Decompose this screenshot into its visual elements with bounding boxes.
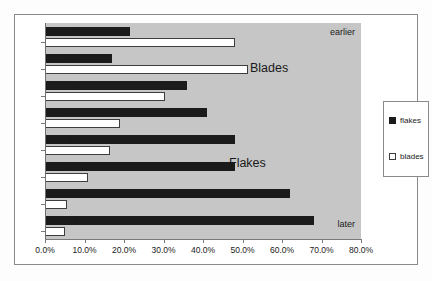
bar-group	[45, 50, 361, 77]
x-axis-label: 0.0%	[35, 245, 54, 255]
y-axis-label: IIIa	[47, 161, 77, 171]
x-axis-label: 20.0%	[112, 245, 136, 255]
y-axis-label: IV	[47, 107, 77, 117]
x-axis-label: 40.0%	[191, 245, 215, 255]
x-axis-label: 10.0%	[72, 245, 96, 255]
x-tick-mark	[45, 239, 46, 243]
legend-label-blades: blades	[400, 152, 424, 161]
x-tick-mark	[361, 239, 362, 243]
bar-group	[45, 158, 361, 185]
plot-area: earlier later Blades Flakes	[45, 23, 361, 239]
x-tick-mark	[85, 239, 86, 243]
bar-blades	[45, 200, 67, 209]
bar-blades	[45, 173, 88, 182]
legend-swatch-flakes-icon	[389, 117, 396, 124]
bar-group	[45, 23, 361, 50]
x-axis-label: 50.0%	[230, 245, 254, 255]
bar-group	[45, 185, 361, 212]
annotation-earlier: earlier	[330, 27, 355, 37]
x-tick-mark	[164, 239, 165, 243]
bar-group	[45, 131, 361, 158]
annotation-later: later	[337, 219, 355, 229]
bar-blades	[45, 146, 110, 155]
y-axis-label: V	[47, 80, 77, 90]
bar-blades	[45, 227, 65, 236]
x-tick-mark	[282, 239, 283, 243]
legend-swatch-blades-icon	[389, 153, 396, 160]
bar-blades	[45, 119, 120, 128]
x-tick-mark	[124, 239, 125, 243]
bar-blades	[45, 65, 248, 74]
x-axis-label: 30.0%	[151, 245, 175, 255]
x-axis-label: 80.0%	[349, 245, 373, 255]
bar-flakes	[45, 216, 314, 225]
y-axis-label: III	[47, 134, 77, 144]
chart-screenshot: earlier later Blades Flakes VIIVIVIVIIII…	[0, 0, 432, 281]
y-axis-label: VII	[47, 26, 77, 36]
bar-blades	[45, 92, 165, 101]
bar-group	[45, 104, 361, 131]
legend-label-flakes: flakes	[400, 116, 421, 125]
x-axis-label: 60.0%	[270, 245, 294, 255]
bar-group	[45, 212, 361, 239]
y-axis-label: I	[47, 215, 77, 225]
x-tick-mark	[243, 239, 244, 243]
y-axis-label: I	[47, 188, 77, 198]
bar-group	[45, 77, 361, 104]
legend-item-flakes: flakes	[389, 116, 421, 125]
x-tick-mark	[203, 239, 204, 243]
x-axis-label: 70.0%	[309, 245, 333, 255]
y-axis-label: VI	[47, 53, 77, 63]
chart-frame: earlier later Blades Flakes VIIVIVIVIIII…	[14, 14, 418, 265]
bar-flakes	[45, 189, 290, 198]
y-axis-line	[45, 23, 46, 239]
bar-blades	[45, 38, 235, 47]
bars-layer	[45, 23, 361, 239]
chart-legend: flakes blades	[383, 101, 429, 177]
annotation-blades: Blades	[250, 61, 288, 75]
legend-item-blades: blades	[389, 152, 424, 161]
annotation-flakes: Flakes	[229, 156, 266, 170]
x-tick-mark	[322, 239, 323, 243]
